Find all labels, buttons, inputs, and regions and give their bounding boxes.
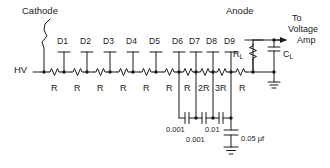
ground-bottom-symbol <box>224 147 238 154</box>
dynode-label-d7: D7 <box>189 37 200 46</box>
dynode-label-d9: D9 <box>224 37 235 46</box>
anode-electrode <box>245 40 263 72</box>
junction-dot-cap-d8 <box>211 116 214 119</box>
resistor-7-symbol <box>182 69 194 76</box>
resistor-label-4: R <box>120 84 127 93</box>
output-label-line3: Amp <box>297 36 316 45</box>
resistor-label-3: R <box>97 84 104 93</box>
junction-dot-d5 <box>154 70 157 73</box>
load-capacitor-label-sub: L <box>290 53 294 60</box>
junction-dot-cap-d9 <box>229 116 232 119</box>
dynode-label-d1: D1 <box>57 37 68 46</box>
junction-dot-d9 <box>229 70 232 73</box>
ground-right-symbol <box>268 82 280 88</box>
junction-dot-d1 <box>62 70 65 73</box>
output-label-line2: Voltage <box>288 25 318 34</box>
cathode-lead-wire <box>42 19 50 72</box>
junction-dot-d7 <box>194 70 197 73</box>
output-label-line1: To <box>292 14 302 23</box>
resistor-label-2: R <box>74 84 81 93</box>
dynode-stubs <box>58 52 237 72</box>
dynode-4-electrode <box>127 52 139 72</box>
dynode-6-electrode <box>173 52 185 72</box>
resistor-label-5: R <box>143 84 150 93</box>
anode-label: Anode <box>226 6 253 16</box>
junction-dot-d8 <box>211 70 214 73</box>
cathode-label: Cathode <box>22 6 58 16</box>
junction-dot-ground <box>272 70 275 73</box>
capacitor-label-3: 0.01 <box>205 126 220 134</box>
dynode-2-electrode <box>81 52 93 72</box>
load-capacitor-label: CL <box>283 50 293 60</box>
load-resistor-symbol <box>250 44 257 60</box>
resistor-1-symbol <box>48 69 61 76</box>
dynode-label-d6: D6 <box>172 37 183 46</box>
circuit-diagram-canvas: Cathode Anode HV To Voltage Amp RL CL D1… <box>0 0 330 168</box>
dynode-label-d2: D2 <box>80 37 91 46</box>
junction-dot-cathode <box>42 70 45 73</box>
dynode-label-d4: D4 <box>126 37 137 46</box>
resistor-label-1: R <box>51 84 58 93</box>
junction-dot-output <box>272 38 275 41</box>
dynode-7-electrode <box>190 52 202 72</box>
load-resistor-label-sub: L <box>240 53 244 60</box>
resistor-6-symbol <box>163 69 176 76</box>
capacitor-label-2: 0.001 <box>186 136 205 144</box>
junction-dot-d6 <box>177 70 180 73</box>
junction-dot-d4 <box>131 70 134 73</box>
resistor-4-symbol <box>117 69 130 76</box>
circuit-schematic-svg <box>0 0 330 168</box>
junction-dot-d3 <box>108 70 111 73</box>
junction-dot-cap-d7 <box>194 116 197 119</box>
dynode-5-electrode <box>150 52 162 72</box>
dynode-label-d8: D8 <box>206 37 217 46</box>
resistor-label-7: R <box>184 84 191 93</box>
resistor-3-symbol <box>94 69 107 76</box>
resistor-9-symbol <box>216 69 228 76</box>
dynode-1-electrode <box>58 52 70 72</box>
resistor-label-6: R <box>166 84 173 93</box>
resistor-label-8: 2R <box>198 84 210 93</box>
load-resistor-label: RL <box>233 50 243 60</box>
resistor-10-symbol <box>234 69 247 76</box>
resistor-2-symbol <box>71 69 84 76</box>
capacitor-label-1: 0.001 <box>166 126 185 134</box>
dynode-3-electrode <box>104 52 116 72</box>
capacitor-label-4: 0.05 µf <box>241 135 264 143</box>
junction-dot-d2 <box>85 70 88 73</box>
junction-dot-anode <box>251 70 254 73</box>
resistor-label-10: R <box>239 84 246 93</box>
resistor-label-9: 3R <box>215 84 227 93</box>
dynode-8-electrode <box>207 52 219 72</box>
dynode-label-d3: D3 <box>103 37 114 46</box>
resistor-5-symbol <box>140 69 153 76</box>
resistor-8-symbol <box>199 69 211 76</box>
dynode-label-d5: D5 <box>149 37 160 46</box>
hv-label: HV <box>14 65 27 75</box>
